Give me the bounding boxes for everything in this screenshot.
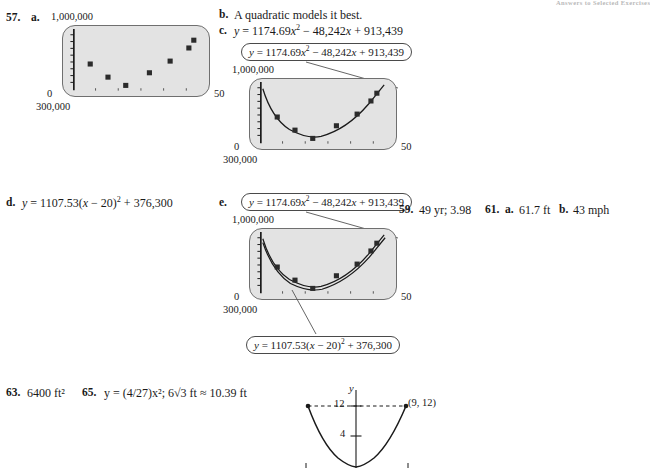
exercise-number-63: 63.: [6, 386, 20, 398]
callout3-lhs: y: [254, 339, 259, 351]
parabola-plot-65: [288, 384, 488, 468]
vertex-form-curve: [263, 238, 385, 290]
vf-exponent: 2: [117, 195, 121, 204]
callout-op2: +: [359, 46, 365, 58]
data-point: [168, 59, 173, 64]
callout-coef-b: 48,242: [321, 46, 351, 58]
parabola-65-annotation-point: (9, 12): [408, 397, 436, 408]
vf-rel: =: [30, 196, 37, 210]
part-text-61a: 61.7 ft: [519, 203, 550, 218]
data-point: [374, 91, 379, 96]
data-point: [334, 273, 339, 278]
scatter-57a-xmin-label: 0: [47, 88, 52, 99]
callout2-lhs: y: [249, 196, 254, 208]
data-point: [147, 70, 152, 75]
callout2-op1: −: [312, 196, 318, 208]
scatter-plot-57a: [62, 25, 210, 97]
scatter-markers: [88, 38, 197, 88]
callout-vertex-form-57e: y = 1107.53(x − 20)2 + 376,300: [246, 336, 400, 354]
callout2-exponent: 2: [306, 194, 310, 203]
eq-op1: −: [303, 24, 310, 38]
data-point: [355, 262, 360, 267]
vf-coef-a: 1107.53: [40, 196, 79, 210]
eq-rel: =: [242, 24, 249, 38]
data-point: [368, 98, 373, 103]
eq-const-c: 913,439: [364, 24, 403, 38]
eq-lhs: y: [234, 24, 239, 38]
parabola-65-ytick-label-12: 12: [334, 398, 345, 409]
part-label-61a: a.: [505, 203, 514, 215]
callout3-k: 376,300: [356, 339, 392, 351]
callout3-op1: −: [317, 339, 323, 351]
data-point: [191, 38, 196, 43]
regression-plot-57c: [249, 78, 397, 150]
vf-op1: −: [91, 196, 98, 210]
exercise-number-59: 59.: [399, 203, 413, 215]
part-label-57c: c.: [219, 24, 227, 36]
marked-point-left: [306, 404, 311, 409]
comparison-57e-ymax-label: 1,000,000: [232, 214, 274, 225]
part-label-57e: e.: [219, 196, 227, 208]
data-point: [374, 241, 379, 246]
callout-var-x: x: [352, 46, 357, 58]
vf-lhs: y: [22, 196, 27, 210]
exercise-number-65: 65.: [82, 386, 96, 398]
scatter-57a-ymin-label: 300,000: [36, 101, 70, 112]
parabola-65-ytick-label-4: 4: [340, 428, 345, 439]
data-point: [368, 248, 373, 253]
callout2-coef-b: 48,242: [321, 196, 351, 208]
callout-lhs: y: [249, 46, 254, 58]
data-point: [88, 61, 93, 66]
exercise-number-57: 57.: [6, 11, 20, 23]
callout3-rel: =: [262, 339, 268, 351]
part-text-61b: 43 mph: [573, 203, 609, 218]
part-label-57a: a.: [31, 11, 40, 23]
vf-var-x: x: [83, 196, 88, 210]
callout3-exponent: 2: [341, 337, 345, 346]
regression-57c-canvas: [250, 79, 396, 149]
data-point: [275, 114, 280, 119]
callout-rel: =: [257, 46, 263, 58]
callout-coef-a: 1174.69: [266, 46, 301, 58]
eq-coef-b: 48,242: [313, 24, 346, 38]
data-point: [292, 278, 297, 283]
part-label-57b: b.: [219, 8, 228, 20]
data-point: [355, 112, 360, 117]
vf-h: 20: [101, 196, 113, 210]
eq-var-x: x: [346, 24, 351, 38]
x-axis-ticks: [283, 141, 374, 143]
callout2-coef-a: 1174.69: [266, 196, 301, 208]
data-point: [275, 264, 280, 269]
exercise-answer-59: 49 yr; 3.98: [419, 203, 471, 218]
callout-leader-line-57e-bottom: [290, 288, 330, 336]
callout-exponent: 2: [306, 44, 310, 53]
part-text-57d: y = 1107.53(x − 20)2 + 376,300: [22, 196, 173, 211]
comparison-57e-ymin-label: 300,000: [223, 304, 257, 315]
parabola-65-canvas: [288, 384, 488, 468]
vf-k: 376,300: [134, 196, 173, 210]
parabola-65-ylabel: y: [349, 383, 354, 394]
callout3-h: 20: [326, 339, 337, 351]
eq-exponent: 2: [296, 23, 300, 32]
data-point: [334, 123, 339, 128]
part-label-61b: b.: [559, 203, 568, 215]
vf-op2: +: [124, 196, 131, 210]
comparison-57e-xmin-label: 0: [234, 291, 239, 302]
part-text-57b: A quadratic models it best.: [234, 8, 362, 23]
scatter-57a-xmax-label: 50: [214, 88, 225, 99]
eq-coef-a: 1174.69: [252, 24, 291, 38]
callout2-rel: =: [257, 196, 263, 208]
callout2-var-x: x: [352, 196, 357, 208]
eq-op2: +: [354, 24, 361, 38]
exercise-answer-65: y = (4/27)x²; 6√3 ft ≈ 10.39 ft: [104, 386, 247, 401]
regression-57c-xmax-label: 50: [401, 141, 412, 152]
running-head: Answers to Selected Exercises: [556, 0, 650, 6]
callout-op1: −: [312, 46, 318, 58]
callout-const-c: 913,439: [368, 46, 404, 58]
callout2-op2: +: [359, 196, 365, 208]
part-label-57d: d.: [6, 196, 15, 208]
data-point: [310, 136, 315, 141]
scatter-57a-canvas: [63, 26, 209, 96]
comparison-57e-xmax-label: 50: [401, 291, 412, 302]
